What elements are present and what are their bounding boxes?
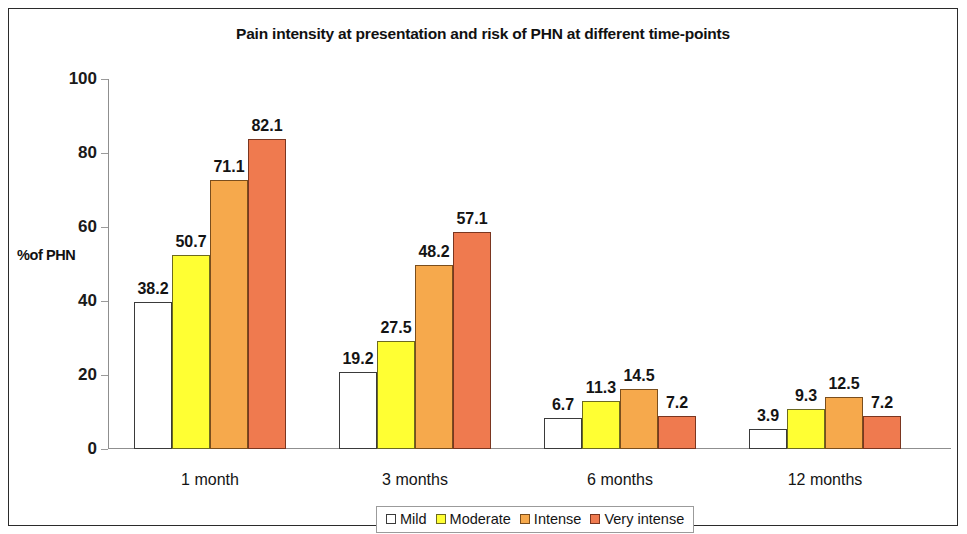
legend-label: Moderate (450, 511, 511, 527)
chart-legend: MildModerateIntenseVery intense (376, 506, 694, 533)
y-axis-tick (101, 227, 108, 228)
bar (863, 416, 901, 449)
bar (453, 232, 491, 449)
bar-value-label: 57.1 (456, 210, 487, 228)
x-axis-category-label: 12 months (788, 471, 863, 489)
bar-value-label: 11.3 (586, 379, 616, 397)
bar (339, 372, 377, 449)
bar (544, 418, 582, 449)
y-axis-tick-label: 100 (69, 69, 97, 89)
legend-label: Intense (534, 511, 582, 527)
legend-swatch-icon (386, 514, 396, 524)
bar (172, 255, 210, 449)
bar-value-label: 3.9 (757, 407, 779, 425)
bar-value-label: 14.5 (623, 367, 654, 385)
y-axis-title: %of PHN (17, 247, 75, 263)
bar-value-label: 48.2 (418, 243, 449, 261)
y-axis-tick-label: 80 (78, 143, 97, 163)
legend-swatch-icon (590, 514, 600, 524)
legend-item: Mild (386, 511, 427, 527)
y-axis-tick-label: 20 (78, 365, 97, 385)
bar-value-label: 7.2 (871, 394, 893, 412)
chart-frame: Pain intensity at presentation and risk … (8, 8, 958, 526)
legend-swatch-icon (436, 514, 446, 524)
bar-value-label: 9.3 (795, 387, 817, 405)
legend-item: Very intense (590, 511, 684, 527)
bar (749, 429, 787, 449)
bar-value-label: 12.5 (828, 375, 859, 393)
y-axis-tick (101, 79, 108, 80)
bar-value-label: 7.2 (666, 394, 688, 412)
bar-value-label: 50.7 (175, 233, 206, 251)
legend-swatch-icon (520, 514, 530, 524)
x-axis-category-label: 1 month (181, 471, 239, 489)
y-axis-tick (101, 449, 108, 450)
y-axis-tick-label: 60 (78, 217, 97, 237)
bar-value-label: 19.2 (342, 350, 373, 368)
bar (787, 409, 825, 449)
bar (582, 401, 620, 449)
plot-area: 020406080100 38.250.771.182.119.227.548.… (108, 79, 951, 449)
bar-value-label: 6.7 (552, 396, 574, 414)
bar (248, 139, 286, 449)
legend-item: Intense (520, 511, 582, 527)
x-axis-category-label: 3 months (382, 471, 448, 489)
bar-value-label: 82.1 (251, 117, 282, 135)
bar-value-label: 71.1 (213, 158, 244, 176)
chart-title: Pain intensity at presentation and risk … (9, 25, 957, 43)
bar (134, 302, 172, 449)
bar-value-label: 27.5 (380, 319, 411, 337)
y-axis-tick (101, 153, 108, 154)
bar (210, 180, 248, 449)
bar (377, 341, 415, 449)
y-axis-tick-label: 0 (88, 439, 97, 459)
bar (825, 397, 863, 449)
bar-value-label: 38.2 (137, 280, 168, 298)
bar (658, 416, 696, 449)
y-axis-tick (101, 375, 108, 376)
legend-label: Very intense (604, 511, 684, 527)
legend-item: Moderate (436, 511, 511, 527)
legend-label: Mild (400, 511, 427, 527)
x-axis-category-label: 6 months (587, 471, 653, 489)
bar (415, 265, 453, 449)
y-axis-tick (101, 301, 108, 302)
bar (620, 389, 658, 449)
y-axis-tick-label: 40 (78, 291, 97, 311)
y-axis-line (108, 79, 109, 449)
